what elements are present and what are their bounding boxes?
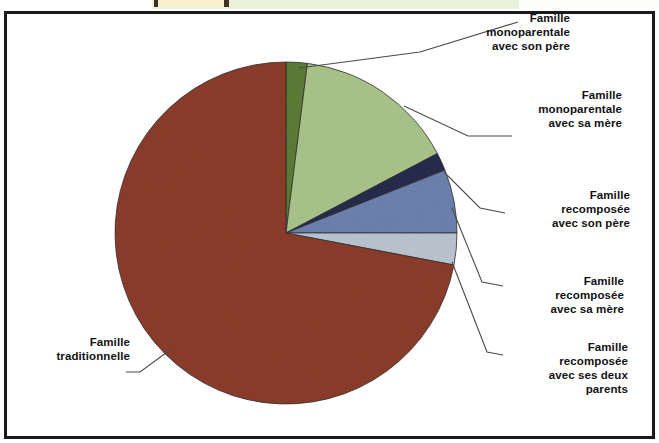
pie-label-recomposee-avec-sa-mere: Famille recomposée avec sa mère — [494, 274, 624, 316]
pie-label-recomposee-avec-son-pere: Famille recomposée avec son père — [490, 188, 630, 230]
leader-line-traditionnelle — [126, 350, 170, 372]
pie-label-famille-traditionnelle: Famille traditionnelle — [10, 335, 130, 363]
pie-label-recomposee-avec-ses-deux-parents: Famille recomposée avec ses deux parents — [488, 340, 628, 396]
pie-label-monoparentale-avec-sa-mere: Famille monoparentale avec sa mère — [462, 88, 622, 130]
figure-page: Famille monoparentale avec son père — 2%… — [0, 0, 659, 443]
pie-label-monoparentale-avec-son-pere: Famille monoparentale avec son père — [430, 11, 570, 53]
